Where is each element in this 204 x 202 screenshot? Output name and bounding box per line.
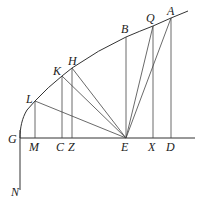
line-le: [35, 101, 126, 138]
line-he: [72, 68, 126, 138]
label-d: D: [165, 140, 175, 154]
label-l: L: [25, 92, 33, 106]
line-ae: [126, 18, 171, 138]
label-z: Z: [68, 140, 75, 154]
parabola-diagram: A Q B H K L G M C Z E X D N: [0, 0, 204, 202]
label-c: C: [56, 140, 65, 154]
label-a: A: [166, 4, 175, 18]
parabola-curve: [20, 11, 188, 138]
label-b: B: [121, 22, 129, 36]
label-x: X: [147, 140, 156, 154]
label-g: G: [8, 132, 17, 146]
label-h: H: [67, 54, 78, 68]
label-n: N: [10, 185, 20, 199]
line-qe: [126, 26, 153, 138]
label-m: M: [28, 140, 40, 154]
label-k: K: [52, 64, 62, 78]
label-q: Q: [146, 11, 155, 25]
label-e: E: [120, 140, 129, 154]
